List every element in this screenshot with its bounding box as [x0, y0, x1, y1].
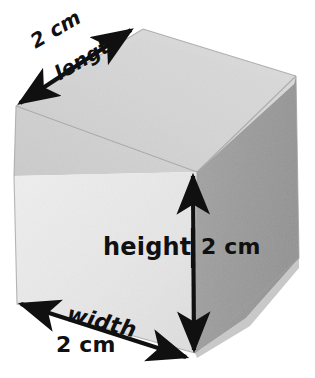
width-measure-label: 2 cm	[56, 334, 116, 356]
cube-diagram: 2 cm length height 2 cm width 2 cm	[0, 0, 315, 378]
cube-illustration	[0, 0, 315, 378]
height-measure-label: 2 cm	[201, 236, 261, 258]
height-name-label: height	[103, 235, 192, 259]
